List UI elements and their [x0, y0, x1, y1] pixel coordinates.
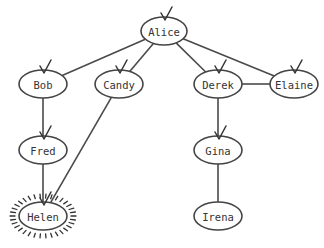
node-candy[interactable]: Candy [95, 60, 143, 98]
node-label: Helen [27, 211, 59, 223]
edge-alice-elaine [183, 39, 274, 76]
node-label: Candy [103, 79, 135, 91]
edge-alice-derek [176, 43, 206, 72]
edges-layer [43, 39, 274, 203]
node-irena[interactable]: Irena [194, 202, 242, 230]
node-label: Derek [202, 79, 234, 91]
edge-alice-candy [130, 43, 154, 71]
node-alice[interactable]: Alice [141, 7, 187, 45]
graph-diagram: AliceBobCandyDerekElaineFredGinaHelenIre… [0, 0, 324, 248]
node-label: Irena [202, 211, 234, 223]
edge-alice-bob [62, 39, 145, 75]
node-label: Elaine [275, 79, 313, 91]
node-derek[interactable]: Derek [194, 60, 242, 98]
node-bob[interactable]: Bob [19, 60, 67, 98]
node-label: Gina [205, 145, 230, 157]
node-label: Fred [30, 145, 55, 157]
node-label: Bob [34, 79, 53, 91]
node-elaine[interactable]: Elaine [270, 60, 318, 98]
nodes-layer: AliceBobCandyDerekElaineFredGinaHelenIre… [10, 7, 318, 238]
node-label: Alice [148, 26, 180, 38]
